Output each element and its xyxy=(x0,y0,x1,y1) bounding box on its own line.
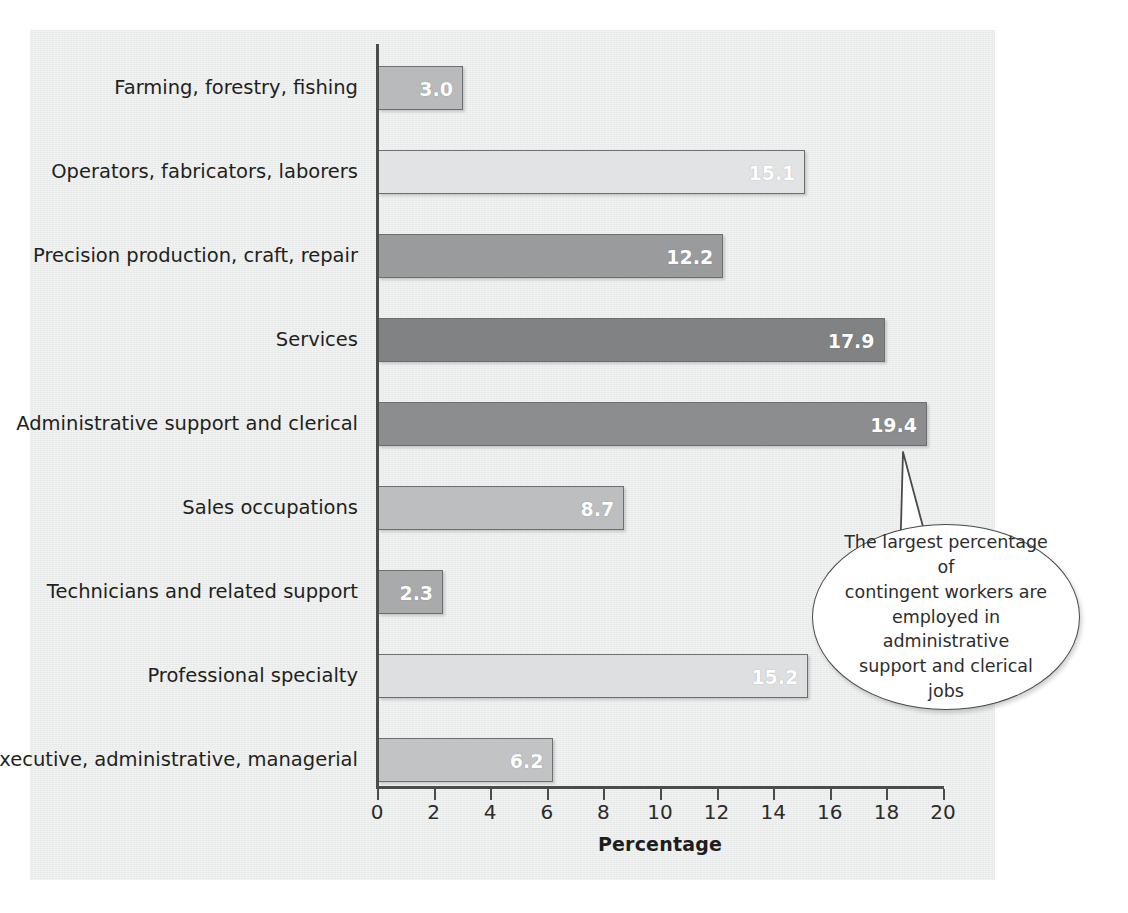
x-tick-label: 14 xyxy=(743,800,803,824)
bar: 2.3 xyxy=(378,570,443,614)
x-tick-mark xyxy=(886,789,888,800)
bar-row: Farming, forestry, fishing3.0 xyxy=(0,66,1128,110)
bar: 3.0 xyxy=(378,66,463,110)
bar: 8.7 xyxy=(378,486,624,530)
bar-value-label: 2.3 xyxy=(399,571,433,615)
x-axis-title: Percentage xyxy=(376,833,944,855)
category-label: Farming, forestry, fishing xyxy=(114,66,358,110)
x-tick-mark xyxy=(773,789,775,800)
category-label: Services xyxy=(276,318,358,362)
category-label: Executive, administrative, managerial xyxy=(0,738,358,782)
callout-text: The largest percentage ofcontingent work… xyxy=(840,530,1052,704)
bar-row: Administrative support and clerical19.4 xyxy=(0,402,1128,446)
x-tick-label: 8 xyxy=(573,800,633,824)
bar: 15.1 xyxy=(378,150,805,194)
bar-value-label: 3.0 xyxy=(419,67,453,111)
bar: 19.4 xyxy=(378,402,927,446)
plot-area: Farming, forestry, fishing3.0Operators, … xyxy=(0,0,1128,913)
x-tick-label: 16 xyxy=(800,800,860,824)
bar-value-label: 15.1 xyxy=(748,151,795,195)
category-label: Sales occupations xyxy=(182,486,358,530)
bar: 15.2 xyxy=(378,654,808,698)
bar-row: Executive, administrative, managerial6.2 xyxy=(0,738,1128,782)
x-tick-mark xyxy=(490,789,492,800)
x-tick-mark xyxy=(943,789,945,800)
bar-value-label: 17.9 xyxy=(828,319,875,363)
bar-value-label: 19.4 xyxy=(870,403,917,447)
bar-value-label: 12.2 xyxy=(666,235,713,279)
x-tick-label: 0 xyxy=(347,800,407,824)
bar-row: Precision production, craft, repair12.2 xyxy=(0,234,1128,278)
bar: 12.2 xyxy=(378,234,723,278)
x-tick-mark xyxy=(717,789,719,800)
bar-value-label: 8.7 xyxy=(581,487,615,531)
bar-value-label: 6.2 xyxy=(510,739,544,783)
x-tick-label: 20 xyxy=(913,800,973,824)
x-tick-mark xyxy=(830,789,832,800)
x-tick-label: 12 xyxy=(687,800,747,824)
bar-row: Services17.9 xyxy=(0,318,1128,362)
category-label: Operators, fabricators, laborers xyxy=(51,150,358,194)
category-label: Technicians and related support xyxy=(47,570,358,614)
bar-chart-figure: Farming, forestry, fishing3.0Operators, … xyxy=(0,0,1128,913)
x-tick-label: 4 xyxy=(460,800,520,824)
x-tick-mark xyxy=(434,789,436,800)
x-tick-label: 6 xyxy=(517,800,577,824)
bar: 17.9 xyxy=(378,318,885,362)
bar-value-label: 15.2 xyxy=(751,655,798,699)
category-label: Professional specialty xyxy=(147,654,358,698)
x-tick-mark xyxy=(603,789,605,800)
x-tick-label: 18 xyxy=(856,800,916,824)
x-tick-label: 2 xyxy=(404,800,464,824)
bar: 6.2 xyxy=(378,738,553,782)
x-tick-mark xyxy=(377,789,379,800)
category-label: Administrative support and clerical xyxy=(16,402,358,446)
callout-bubble: The largest percentage ofcontingent work… xyxy=(812,524,1080,710)
y-axis-line xyxy=(376,44,379,788)
bar-row: Operators, fabricators, laborers15.1 xyxy=(0,150,1128,194)
x-tick-mark xyxy=(547,789,549,800)
category-label: Precision production, craft, repair xyxy=(33,234,358,278)
bar-row: Sales occupations8.7 xyxy=(0,486,1128,530)
x-tick-mark xyxy=(660,789,662,800)
x-tick-label: 10 xyxy=(630,800,690,824)
